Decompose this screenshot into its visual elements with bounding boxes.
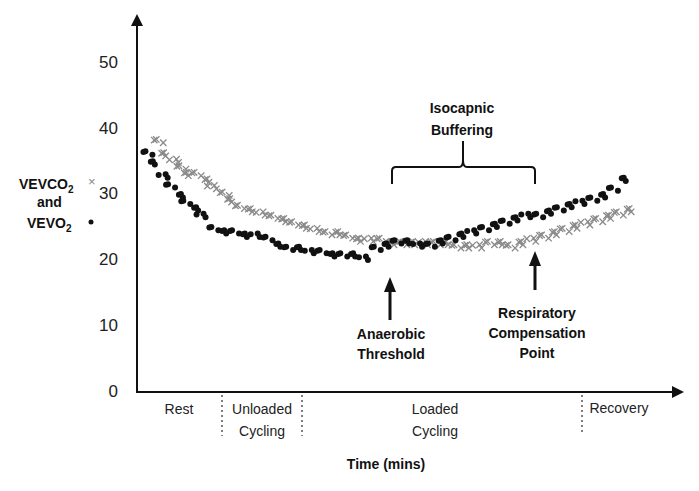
vevo2-point [206, 225, 212, 231]
y-tick-10: 10 [99, 316, 118, 335]
vevo2-point [178, 198, 184, 204]
vevco2-point [574, 225, 580, 231]
legend-and-label: and [37, 194, 62, 210]
vevco2-point [466, 245, 472, 251]
vevco2-point [533, 238, 539, 244]
vevo2-point [194, 211, 200, 217]
vevo2-point [444, 234, 450, 240]
vevo2-point [606, 185, 612, 191]
vevo2-point [477, 225, 483, 231]
phase-loaded-label-2: Cycling [412, 423, 458, 439]
vevo2-point [511, 215, 517, 221]
anaerobic-arrowhead-icon [384, 277, 396, 292]
vevo2-point [302, 248, 308, 254]
phase-loaded-label: Loaded [412, 401, 459, 417]
vevo2-point [464, 228, 470, 234]
vevo2-point [473, 231, 479, 237]
vevo2-point [531, 211, 537, 217]
vevco2-point [599, 219, 605, 225]
vevco2-point [628, 209, 634, 215]
vevco2-point [491, 242, 497, 248]
vevo2-point [389, 238, 395, 244]
vevco2-point [620, 212, 626, 218]
vevo2-point [156, 172, 162, 178]
vevo2-point [348, 251, 354, 257]
buffering-label: Buffering [431, 122, 493, 138]
vevco2-point [566, 228, 572, 234]
vevo2-point [356, 254, 362, 260]
vevco2-point [587, 222, 593, 228]
vevo2-point [149, 152, 155, 158]
vevco2-point [307, 226, 313, 232]
y-tick-20: 20 [99, 250, 118, 269]
vevco2-point [607, 215, 613, 221]
vevo2-point [565, 202, 571, 208]
vevo2-point [327, 251, 333, 257]
vevco2-point [329, 232, 335, 238]
vevo2-point [273, 241, 279, 247]
vevco2-point [553, 232, 559, 238]
vevo2-point [552, 205, 558, 211]
vevco2-point [545, 235, 551, 241]
vevo2-point [561, 208, 567, 214]
vevo2-point [402, 238, 408, 244]
vevo2-point [163, 182, 169, 188]
x-axis-label: Time (mins) [347, 456, 425, 472]
x-axis-arrow-icon [672, 386, 684, 398]
vevo2-point [227, 228, 233, 234]
phase-rest-label: Rest [165, 401, 194, 417]
vevo2-point [172, 185, 178, 191]
isocapnic-brace [392, 141, 535, 184]
vevo2-point [281, 244, 287, 250]
vevo2-point [294, 244, 300, 250]
vevo2-point [518, 211, 524, 217]
vevo2-point [369, 244, 375, 250]
phase-recovery-label: Recovery [589, 400, 648, 416]
y-tick-0: 0 [109, 382, 118, 401]
scatter-points [140, 136, 634, 263]
vevo2-point [619, 175, 625, 181]
vevo2-point [261, 234, 267, 240]
vevco2-point [458, 245, 464, 251]
vevco2-point [361, 236, 367, 242]
vevo2-point [432, 244, 438, 250]
vevo2-point [410, 241, 416, 247]
vevo2-point [140, 149, 146, 155]
vevo2-point [315, 248, 321, 254]
vevco2-point [469, 242, 475, 248]
vevco2-point [166, 157, 172, 163]
y-tick-30: 30 [99, 184, 118, 203]
phase-unloaded-label-2: Cycling [239, 423, 285, 439]
vevo2-point [191, 205, 197, 211]
vevo2-point [148, 159, 154, 165]
legend-x-icon: × [88, 174, 96, 189]
vevo2-point [615, 188, 621, 194]
vevo2-point [490, 221, 496, 227]
vevo2-point [598, 192, 604, 198]
vevo2-point [382, 241, 388, 247]
vevo2-point [335, 251, 341, 257]
vevo2-point [453, 237, 459, 243]
vevo2-point [248, 231, 254, 237]
compensation-label: Compensation [488, 325, 585, 341]
legend-dot-icon [89, 220, 94, 225]
vevco2-point [185, 172, 191, 178]
vevo2-point [581, 201, 587, 207]
vevco2-point [357, 238, 363, 244]
vevo2-point [544, 208, 550, 214]
vevo2-point [203, 214, 209, 220]
vevo2-point [219, 228, 225, 234]
vevo2-point [176, 192, 182, 198]
y-axis-arrow-icon [131, 14, 143, 26]
y-tick-50: 50 [99, 53, 118, 72]
vevco2-point [253, 209, 259, 215]
vevo2-point [436, 238, 442, 244]
vevco2-point [520, 242, 526, 248]
threshold-label: Threshold [357, 346, 425, 362]
vevco2-point [160, 140, 166, 146]
anaerobic-label: Anaerobic [357, 326, 426, 342]
vevo2-point [240, 231, 246, 237]
legend-vevco2-label: VEVCO2 [19, 176, 74, 195]
vevo2-point [507, 221, 513, 227]
vevo2-point [572, 198, 578, 204]
